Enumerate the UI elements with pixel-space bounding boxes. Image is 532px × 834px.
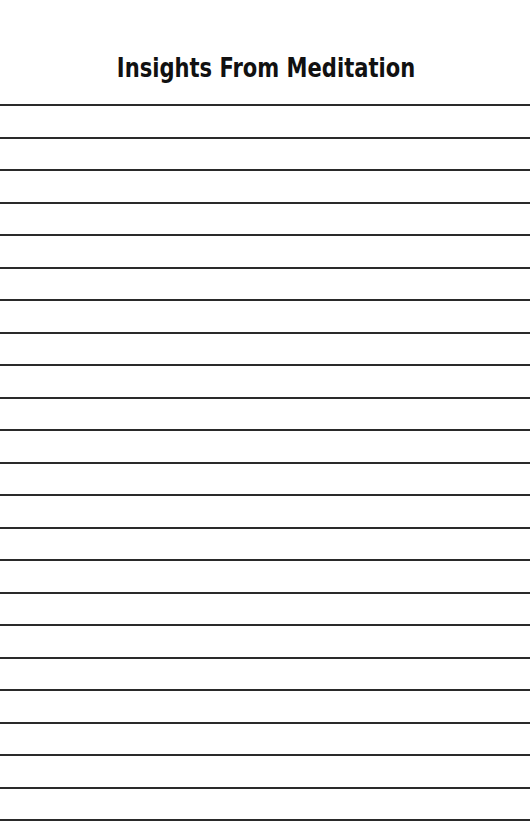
writing-line: [0, 234, 530, 236]
writing-line: [0, 527, 530, 529]
writing-line: [0, 787, 530, 789]
writing-line: [0, 169, 530, 171]
ruled-lines: [0, 0, 532, 834]
writing-line: [0, 657, 530, 659]
writing-line: [0, 559, 530, 561]
writing-line: [0, 137, 530, 139]
writing-line: [0, 267, 530, 269]
writing-line: [0, 429, 530, 431]
writing-line: [0, 202, 530, 204]
writing-line: [0, 364, 530, 366]
writing-line: [0, 689, 530, 691]
writing-line: [0, 494, 530, 496]
writing-line: [0, 722, 530, 724]
writing-line: [0, 819, 530, 821]
writing-line: [0, 299, 530, 301]
writing-line: [0, 397, 530, 399]
writing-line: [0, 104, 530, 106]
writing-line: [0, 754, 530, 756]
writing-line: [0, 592, 530, 594]
writing-line: [0, 624, 530, 626]
writing-line: [0, 462, 530, 464]
writing-line: [0, 332, 530, 334]
